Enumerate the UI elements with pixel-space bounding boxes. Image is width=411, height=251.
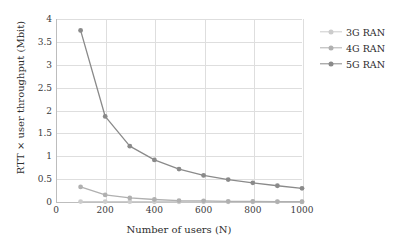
legend-item-3g-ran[interactable]: 3G RAN (320, 24, 408, 40)
x-axis-title: Number of users (N) (56, 224, 302, 235)
data-series-layer (56, 19, 302, 202)
chart-root: 00.511.522.533.54 02004006008001000 Numb… (0, 0, 411, 251)
data-point-marker (103, 114, 108, 119)
x-tick-label: 400 (146, 205, 163, 215)
y-tick-label: 3 (2, 60, 52, 70)
x-tick-label: 1000 (291, 205, 314, 215)
legend-marker-icon (320, 43, 342, 53)
data-point-marker (275, 199, 280, 204)
data-point-marker (300, 199, 305, 204)
legend-label: 4G RAN (346, 43, 385, 54)
y-tick-label: 1.5 (2, 128, 52, 138)
y-tick-label: 2.5 (2, 83, 52, 93)
x-tick-label: 0 (53, 205, 59, 215)
data-point-marker (250, 180, 255, 185)
legend-label: 5G RAN (346, 59, 385, 70)
data-point-marker (103, 199, 108, 204)
series-5g-ran (78, 28, 304, 191)
y-tick-label: 0 (2, 197, 52, 207)
data-point-marker (250, 199, 255, 204)
y-tick-label: 4 (2, 14, 52, 24)
x-tick-label: 200 (97, 205, 114, 215)
data-point-marker (152, 197, 157, 202)
x-axis-tick-labels: 02004006008001000 (56, 205, 302, 219)
x-tick-label: 600 (195, 205, 212, 215)
legend-label: 3G RAN (346, 27, 385, 38)
legend-marker-icon (320, 59, 342, 69)
data-point-marker (201, 198, 206, 203)
x-tick-label: 800 (244, 205, 261, 215)
y-axis-title: RTT × user throughput (Mbit) (15, 8, 26, 188)
data-point-marker (78, 199, 83, 204)
chart-legend: 3G RAN4G RAN5G RAN (320, 24, 408, 72)
legend-marker-icon (320, 27, 342, 37)
data-point-marker (275, 183, 280, 188)
data-point-marker (127, 195, 132, 200)
data-point-marker (201, 173, 206, 178)
series-line (81, 187, 302, 202)
data-point-marker (177, 198, 182, 203)
data-point-marker (177, 167, 182, 172)
data-point-marker (103, 193, 108, 198)
y-tick-label: 1 (2, 151, 52, 161)
y-tick-label: 2 (2, 106, 52, 116)
series-line (81, 30, 302, 188)
legend-item-4g-ran[interactable]: 4G RAN (320, 40, 408, 56)
data-point-marker (226, 177, 231, 182)
y-tick-label: 0.5 (2, 174, 52, 184)
data-point-marker (226, 199, 231, 204)
data-point-marker (78, 28, 83, 33)
legend-item-5g-ran[interactable]: 5G RAN (320, 56, 408, 72)
y-axis-tick-labels: 00.511.522.533.54 (0, 19, 52, 202)
data-point-marker (78, 185, 83, 190)
y-tick-label: 3.5 (2, 37, 52, 47)
gridline-vertical (303, 19, 304, 202)
data-point-marker (127, 144, 132, 149)
data-point-marker (152, 158, 157, 163)
data-point-marker (300, 186, 305, 191)
